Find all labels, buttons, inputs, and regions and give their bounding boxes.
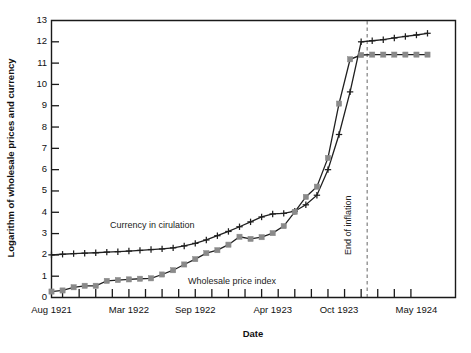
plus-marker <box>258 214 264 220</box>
plus-marker <box>48 252 54 258</box>
y-axis-title: Logarithm of wholesale prices and curren… <box>5 58 16 258</box>
plus-marker <box>336 131 342 137</box>
series-path <box>52 55 428 292</box>
square-marker <box>104 278 109 283</box>
plus-marker <box>402 33 408 39</box>
data-series-layer <box>48 30 430 294</box>
plus-marker <box>380 36 386 42</box>
square-marker <box>303 194 308 199</box>
square-marker <box>270 231 275 236</box>
square-marker <box>359 52 364 57</box>
plus-marker <box>281 210 287 216</box>
plus-marker <box>104 249 110 255</box>
y-tick-label: 12 <box>36 35 47 46</box>
plus-marker <box>115 248 121 254</box>
plus-marker <box>170 245 176 251</box>
plus-marker <box>413 32 419 38</box>
plus-marker <box>391 35 397 41</box>
plus-marker <box>424 30 430 36</box>
plus-marker <box>369 38 375 44</box>
chart-svg: Logarithm of wholesale prices and curren… <box>0 0 471 353</box>
y-tick-label: 11 <box>37 57 47 68</box>
square-marker <box>403 52 408 57</box>
square-marker <box>171 268 176 273</box>
square-marker <box>49 289 54 294</box>
square-marker <box>137 276 142 281</box>
square-marker <box>381 52 386 57</box>
plus-marker <box>148 246 154 252</box>
square-marker <box>370 52 375 57</box>
square-marker <box>115 277 120 282</box>
plus-marker <box>236 224 242 230</box>
plot-frame <box>52 21 456 298</box>
y-tick-label: 8 <box>42 121 47 132</box>
plus-marker <box>214 233 220 239</box>
x-axis-ticks <box>63 289 411 297</box>
plus-marker <box>247 219 253 225</box>
plus-marker <box>203 237 209 243</box>
square-marker <box>82 283 87 288</box>
y-tick-label: 1 <box>42 270 47 281</box>
x-tick-label: Aug 1921 <box>31 304 72 315</box>
plus-marker <box>181 243 187 249</box>
y-tick-label: 7 <box>42 142 47 153</box>
y-tick-label: 0 <box>42 291 47 302</box>
square-marker <box>292 209 297 214</box>
end-of-inflation-label: End of inflation <box>343 195 353 255</box>
wholesale-series-label: Wholesale price index <box>188 276 277 286</box>
square-marker <box>215 248 220 253</box>
square-marker <box>126 277 131 282</box>
square-marker <box>314 184 319 189</box>
square-marker <box>193 257 198 262</box>
square-marker <box>248 236 253 241</box>
plus-marker <box>70 250 76 256</box>
plus-marker <box>93 250 99 256</box>
square-marker <box>347 57 352 62</box>
series-path <box>52 33 428 255</box>
square-marker <box>93 283 98 288</box>
square-marker <box>60 288 65 293</box>
square-marker <box>336 101 341 106</box>
square-marker <box>226 242 231 247</box>
y-tick-label: 9 <box>42 99 47 110</box>
x-tick-label: Sep 1922 <box>175 304 216 315</box>
plus-marker <box>137 247 143 253</box>
x-axis-title: Date <box>243 328 264 339</box>
square-marker <box>392 52 397 57</box>
plus-marker <box>81 250 87 256</box>
square-marker <box>159 272 164 277</box>
square-marker <box>182 262 187 267</box>
plus-marker <box>126 248 132 254</box>
y-tick-label: 2 <box>42 248 47 259</box>
plus-marker <box>192 240 198 246</box>
y-tick-label: 5 <box>42 184 47 195</box>
y-tick-label: 3 <box>42 227 47 238</box>
plus-marker <box>59 251 65 257</box>
x-tick-label: Apr 1923 <box>253 304 292 315</box>
square-marker <box>281 224 286 229</box>
x-axis-tick-labels: Aug 1921Mar 1922Sep 1922Apr 1923Oct 1923… <box>31 304 437 315</box>
series-wholesale <box>49 52 430 294</box>
x-tick-label: Oct 1923 <box>320 304 359 315</box>
plus-marker <box>225 228 231 234</box>
currency-series-label: Currency in cirulation <box>110 220 195 230</box>
plus-marker <box>269 211 275 217</box>
square-marker <box>414 52 419 57</box>
square-marker <box>71 285 76 290</box>
y-axis-ticks: 012345678910111213 <box>36 14 59 302</box>
series-currency <box>48 30 430 258</box>
y-tick-label: 4 <box>42 206 47 217</box>
y-tick-label: 13 <box>36 14 47 25</box>
chart-figure: Logarithm of wholesale prices and curren… <box>0 0 471 353</box>
square-marker <box>204 251 209 256</box>
y-tick-label: 6 <box>42 163 47 174</box>
x-tick-label: May 1924 <box>396 304 438 315</box>
y-tick-label: 10 <box>36 78 47 89</box>
plus-marker <box>325 166 331 172</box>
square-marker <box>425 52 430 57</box>
plus-marker <box>159 246 165 252</box>
x-tick-label: Mar 1922 <box>109 304 149 315</box>
square-marker <box>325 155 330 160</box>
square-marker <box>237 234 242 239</box>
plus-marker <box>347 89 353 95</box>
